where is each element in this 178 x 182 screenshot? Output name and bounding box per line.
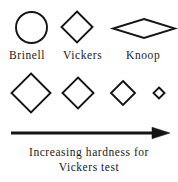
elongated-rhombus-icon bbox=[113, 19, 175, 38]
diamond-icon-smallest bbox=[154, 88, 165, 99]
diamond-icon-large bbox=[63, 78, 94, 109]
indenter-label-knoop: Knoop bbox=[126, 49, 160, 61]
caption-line-1: Increasing hardness for bbox=[0, 145, 178, 160]
circle-icon bbox=[16, 12, 47, 43]
vickers-indent-size-series bbox=[12, 74, 165, 113]
diamond-icon-small bbox=[111, 81, 135, 105]
diamond-icon-largest bbox=[12, 74, 51, 113]
diamond-icon bbox=[62, 12, 93, 43]
figure-caption: Increasing hardness for Vickers test bbox=[0, 145, 178, 175]
hardness-indenter-figure: Brinell Vickers Knoop Increasing hardnes… bbox=[0, 0, 178, 182]
indenter-row bbox=[16, 12, 175, 44]
caption-line-2: Vickers test bbox=[0, 160, 178, 175]
indenter-label-vickers: Vickers bbox=[63, 49, 102, 61]
indenter-label-brinell: Brinell bbox=[9, 49, 45, 61]
arrow-head bbox=[152, 127, 170, 139]
arrow-right-icon bbox=[11, 127, 170, 139]
